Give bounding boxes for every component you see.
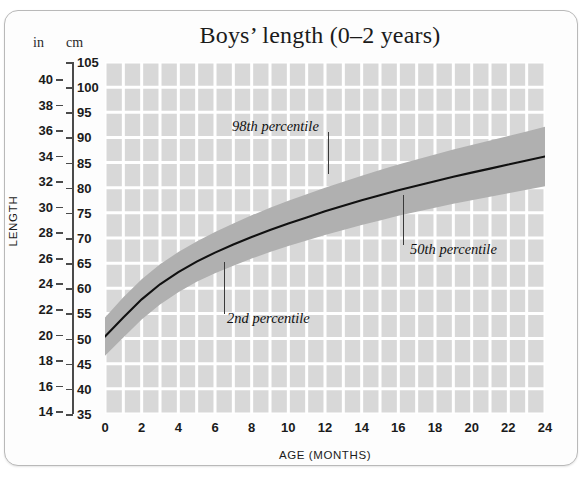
- y-ticklabel-inches: 30: [20, 199, 53, 214]
- y-ticklabel-inches: 16: [20, 378, 53, 393]
- y-ticklabel-cm: 45: [77, 356, 91, 371]
- y-ticklabel-cm: 95: [77, 105, 91, 120]
- y-ticklabel-inches: 28: [20, 225, 53, 240]
- y-tick-inches: [56, 309, 63, 311]
- y-tick-inches: [56, 105, 63, 107]
- y-axis-title: LENGTH: [7, 186, 19, 256]
- y-tick-inches: [56, 79, 63, 81]
- x-ticklabel: 22: [493, 420, 523, 435]
- y-ticklabel-inches: 14: [20, 404, 53, 419]
- y-ticklabel-inches: 22: [20, 302, 53, 317]
- y-tick-cm: [66, 263, 73, 265]
- y-ticklabel-cm: 80: [77, 180, 91, 195]
- y-tick-cm: [66, 339, 73, 341]
- y-axis-unit-inches-caption: in: [33, 35, 44, 51]
- y-ticklabel-inches: 40: [20, 72, 53, 87]
- annotation-98th-percentile: 98th percentile: [232, 118, 319, 135]
- y-tick-cm: [66, 137, 73, 139]
- y-tick-cm: [66, 414, 73, 416]
- annotation-50th-leader-line: [403, 195, 404, 245]
- y-ticklabel-cm: 90: [77, 130, 91, 145]
- y-tick-inches: [56, 207, 63, 209]
- y-tick-cm: [66, 163, 73, 165]
- annotation-2nd-percentile: 2nd percentile: [227, 310, 310, 327]
- y-ticklabel-inches: 38: [20, 97, 53, 112]
- x-ticklabel: 20: [457, 420, 487, 435]
- y-tick-inches: [56, 232, 63, 234]
- y-tick-cm: [66, 389, 73, 391]
- x-ticklabel: 8: [237, 420, 267, 435]
- annotation-50th-percentile: 50th percentile: [410, 241, 497, 258]
- y-ticklabel-cm: 105: [77, 55, 99, 70]
- y-ticklabel-cm: 100: [77, 80, 99, 95]
- x-ticklabel: 14: [347, 420, 377, 435]
- y-ticklabel-cm: 50: [77, 331, 91, 346]
- y-ticklabel-inches: 32: [20, 174, 53, 189]
- y-ticklabel-cm: 60: [77, 281, 91, 296]
- annotation-98th-leader-line: [328, 132, 329, 174]
- y-tick-cm: [66, 188, 73, 190]
- annotation-2nd-leader-line: [224, 262, 225, 314]
- y-tick-inches: [56, 283, 63, 285]
- y-tick-inches: [56, 411, 63, 413]
- x-ticklabel: 16: [383, 420, 413, 435]
- y-tick-inches: [56, 386, 63, 388]
- y-ticklabel-cm: 75: [77, 205, 91, 220]
- y-tick-inches: [56, 335, 63, 337]
- y-tick-cm: [66, 112, 73, 114]
- y-tick-inches: [56, 258, 63, 260]
- y-ticklabel-inches: 18: [20, 353, 53, 368]
- y-ticklabel-cm: 40: [77, 381, 91, 396]
- y-tick-cm: [66, 213, 73, 215]
- x-ticklabel: 2: [127, 420, 157, 435]
- y-ticklabel-cm: 65: [77, 256, 91, 271]
- y-tick-cm: [66, 87, 73, 89]
- x-axis-title: AGE (MONTHS): [105, 449, 545, 461]
- x-ticklabel: 18: [420, 420, 450, 435]
- x-ticklabel: 0: [90, 420, 120, 435]
- y-axis-unit-cm-caption: cm: [66, 35, 83, 51]
- y-ticklabel-inches: 24: [20, 276, 53, 291]
- plot-series-layer: [105, 62, 545, 414]
- y-ticklabel-cm: 70: [77, 231, 91, 246]
- y-tick-inches: [56, 181, 63, 183]
- x-ticklabel: 12: [310, 420, 340, 435]
- y-ticklabel-inches: 34: [20, 148, 53, 163]
- growth-chart-figure: Boys’ length (0–2 years) in cm LENGTH AG…: [0, 0, 588, 478]
- x-ticklabel: 24: [530, 420, 560, 435]
- y-tick-cm: [66, 288, 73, 290]
- y-ticklabel-inches: 20: [20, 327, 53, 342]
- y-ticklabel-cm: 85: [77, 155, 91, 170]
- y-tick-inches: [56, 156, 63, 158]
- y-tick-cm: [66, 238, 73, 240]
- y-ticklabel-cm: 55: [77, 306, 91, 321]
- x-ticklabel: 4: [163, 420, 193, 435]
- y-tick-cm: [66, 313, 73, 315]
- plot-area: [105, 62, 545, 414]
- y-tick-inches: [56, 360, 63, 362]
- y-tick-inches: [56, 130, 63, 132]
- y-ticklabel-inches: 26: [20, 250, 53, 265]
- y-tick-cm: [66, 62, 73, 64]
- page-title: Boys’ length (0–2 years): [110, 22, 530, 49]
- x-ticklabel: 10: [273, 420, 303, 435]
- y-tick-cm: [66, 364, 73, 366]
- y-ticklabel-inches: 36: [20, 123, 53, 138]
- x-ticklabel: 6: [200, 420, 230, 435]
